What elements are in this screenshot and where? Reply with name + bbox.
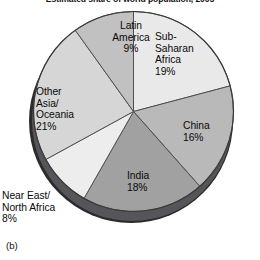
chart-title: Estimated share of world population, 200… (0, 0, 260, 5)
slice-label-latin-america: Latin America 9% (100, 20, 162, 55)
slice-label-near-east-north-africa: Near East/ North Africa 8% (2, 190, 88, 225)
slice-label-other-asia-oceania: Other Asia/ Oceania 21% (36, 86, 92, 132)
slice-label-sub-saharan-africa: Sub- Saharan Africa 19% (155, 31, 215, 77)
slice-label-india: India 18% (127, 170, 169, 193)
figure-caption: (b) (6, 240, 18, 251)
slice-label-china: China 16% (183, 120, 231, 143)
